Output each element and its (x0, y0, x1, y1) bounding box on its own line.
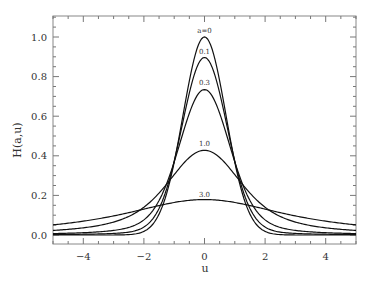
y-tick-label: 1.0 (31, 32, 47, 43)
axis-tick-labels: −4−20240.00.20.40.60.81.0 (31, 32, 329, 263)
y-tick-label: 0.8 (31, 71, 47, 82)
x-tick-label: −4 (76, 251, 91, 262)
curve-label: 0.1 (199, 48, 210, 56)
voigt-profile-chart: −4−20240.00.20.40.60.81.0 a=00.10.31.03.… (0, 0, 374, 285)
curve-labels: a=00.10.31.03.0 (197, 27, 212, 199)
x-tick-label: 2 (262, 251, 268, 262)
curve-a-3 (53, 200, 356, 225)
x-tick-label: −2 (137, 251, 152, 262)
y-tick-label: 0.2 (31, 190, 47, 201)
y-axis-label: H(a,u) (11, 122, 24, 157)
curves (53, 37, 356, 235)
x-tick-label: 0 (201, 251, 207, 262)
x-tick-label: 4 (323, 251, 329, 262)
curve-label: 3.0 (199, 191, 210, 199)
y-tick-label: 0.0 (31, 230, 47, 241)
curve-label: a=0 (197, 27, 212, 35)
curve-a-0 (53, 37, 356, 235)
y-tick-label: 0.6 (31, 111, 47, 122)
curve-a-0_3 (53, 90, 356, 234)
curve-label: 0.3 (199, 79, 210, 87)
y-tick-label: 0.4 (31, 150, 47, 161)
curve-label: 1.0 (199, 140, 210, 148)
x-axis-label: u (201, 262, 208, 275)
